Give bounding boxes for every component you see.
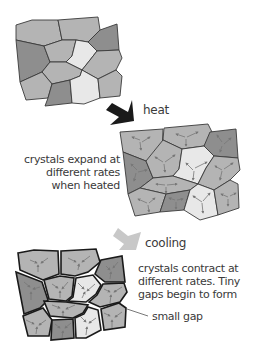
cooling-arrow-icon xyxy=(113,228,141,250)
small-gap-leader-line xyxy=(127,309,148,316)
expand-label-line1: crystals expand at xyxy=(10,153,120,166)
contract-label-line1: crystals contract at xyxy=(138,262,238,275)
expand-label-line3: when heated xyxy=(10,179,120,192)
contract-label-line3: gaps begin to form xyxy=(138,288,237,301)
contract-label-line2: different rates. Tiny xyxy=(138,275,240,288)
initial-rock-crystals xyxy=(16,17,122,106)
small-gap-label: small gap xyxy=(152,310,203,323)
heat-label: heat xyxy=(143,104,169,117)
cooling-label: cooling xyxy=(145,237,186,250)
expand-label-line2: different rates xyxy=(10,166,120,179)
heat-arrow-icon xyxy=(106,100,134,125)
cooled-rock-crystals xyxy=(16,249,127,340)
